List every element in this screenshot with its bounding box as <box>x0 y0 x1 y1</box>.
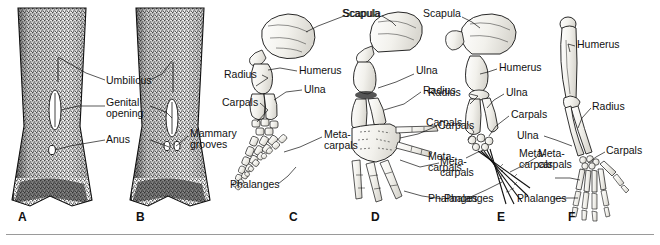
label-phalanges-c: Phalanges <box>230 179 280 191</box>
panel-letter-d: D <box>371 210 380 224</box>
label-ulna-e: Ulna <box>506 87 528 99</box>
label-carpals-c: Carpals <box>222 97 258 109</box>
label-mammary-grooves-b: Mammary grooves <box>190 128 248 150</box>
panel-d-artwork <box>352 12 444 202</box>
label-radius-e: Radius <box>428 87 461 99</box>
label-phalanges-f: Phalanges <box>517 193 567 205</box>
label-radius-c: Radius <box>224 69 257 81</box>
label-ulna-d: Ulna <box>416 65 438 77</box>
label-metacarpals-f: Meta- carpals <box>519 148 563 170</box>
label-ulna-f: Ulna <box>517 130 539 142</box>
label-scapula-d: Scapula <box>343 8 381 20</box>
label-carpals-e-left: Carpals <box>426 117 462 129</box>
label-umbilicus-a: Umbilicus <box>106 75 152 87</box>
label-carpals-f: Carpals <box>606 145 642 157</box>
label-carpals-e-right: Carpals <box>511 109 547 121</box>
label-radius-f: Radius <box>592 101 625 113</box>
label-metacarpals-c: Meta- carpals <box>324 129 368 151</box>
label-ulna-c: Ulna <box>304 84 326 96</box>
label-humerus-e: Humerus <box>499 62 542 74</box>
label-humerus-f: Humerus <box>577 39 620 51</box>
panel-a-artwork <box>10 6 105 211</box>
figure-artwork <box>0 0 660 245</box>
panel-letter-c: C <box>289 210 298 224</box>
label-humerus-c: Humerus <box>299 65 342 77</box>
panel-letter-e: E <box>497 210 505 224</box>
label-anus-a: Anus <box>106 134 130 146</box>
figure-divider-rule <box>6 234 654 235</box>
label-genital-opening-a: Genital opening <box>106 97 158 119</box>
label-metacarpals-e-left: Meta- carpals <box>428 151 472 173</box>
comparative-anatomy-figure: Umbilicus Genital opening Anus Mammary g… <box>0 0 660 245</box>
panel-letter-a: A <box>18 210 27 224</box>
panel-letter-f: F <box>568 210 575 224</box>
panel-letter-b: B <box>136 210 145 224</box>
label-scapula-e: Scapula <box>423 8 461 20</box>
label-phalanges-e: Phalanges <box>428 193 478 205</box>
